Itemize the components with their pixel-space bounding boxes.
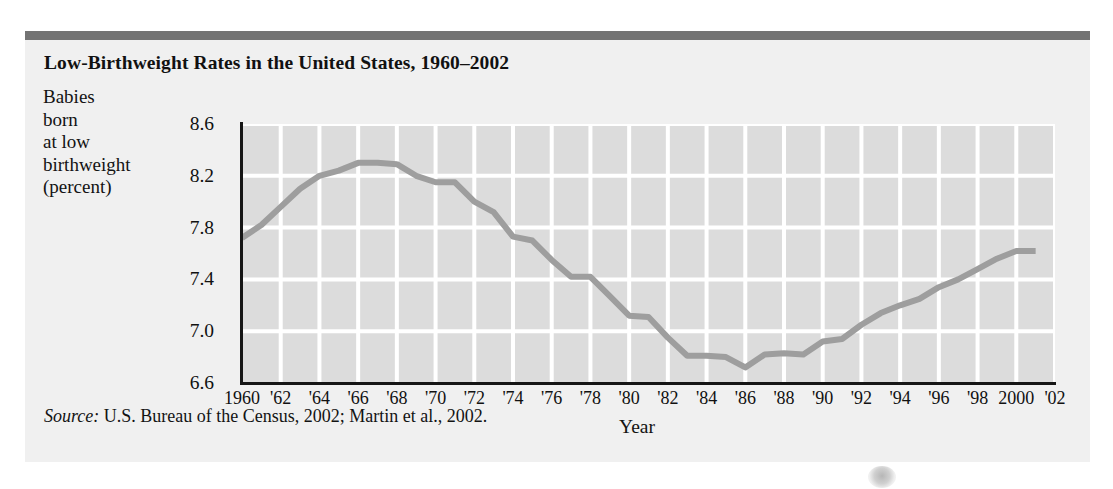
x-axis-tick-label: '82	[657, 388, 678, 409]
x-axis-tick-label: '94	[890, 388, 911, 409]
x-axis-tick-label: '96	[928, 388, 949, 409]
x-axis-tick-label: '80	[619, 388, 640, 409]
x-axis-tick-label: '90	[812, 388, 833, 409]
x-axis-line	[240, 382, 1056, 385]
horizontal-gridlines	[242, 124, 1055, 331]
x-axis-tick-label: '86	[735, 388, 756, 409]
x-axis-tick-label: 2000	[998, 388, 1034, 409]
source-note-text: U.S. Bureau of the Census, 2002; Martin …	[99, 406, 487, 426]
y-axis-tick-label: 6.6	[154, 372, 214, 394]
stray-scan-artifact	[868, 466, 896, 488]
y-axis-tick-label: 8.6	[154, 113, 214, 135]
plot-region: 8.68.27.87.47.06.6 1960'62'64'66'68'70'7…	[217, 88, 1057, 388]
y-axis-caption-line-1: Babies	[43, 86, 198, 109]
y-axis-tick-label: 7.0	[154, 320, 214, 342]
figure-top-accent-bar	[25, 31, 1090, 40]
x-axis-tick-label: '02	[1044, 388, 1065, 409]
x-axis-tick-label: '92	[851, 388, 872, 409]
x-axis-tick-label: '98	[967, 388, 988, 409]
source-note-label: Source:	[44, 406, 99, 426]
x-axis-tick-label: '88	[773, 388, 794, 409]
x-axis-tick-label: '74	[502, 388, 523, 409]
x-axis-tick-label: '78	[580, 388, 601, 409]
chart-title: Low-Birthweight Rates in the United Stat…	[44, 52, 509, 74]
data-series-line	[242, 163, 1036, 368]
x-axis-tick-label: '76	[541, 388, 562, 409]
source-note: Source: U.S. Bureau of the Census, 2002;…	[44, 406, 487, 427]
plot-area	[242, 124, 1055, 383]
x-axis-tick-label: '84	[696, 388, 717, 409]
figure-container: Low-Birthweight Rates in the United Stat…	[25, 31, 1090, 462]
y-axis-tick-label: 7.4	[154, 268, 214, 290]
y-axis-tick-label: 8.2	[154, 165, 214, 187]
line-chart-svg	[242, 124, 1055, 383]
y-axis-tick-label: 7.8	[154, 217, 214, 239]
y-axis-line	[240, 122, 243, 385]
